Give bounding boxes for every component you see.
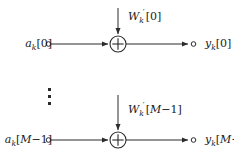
- input-label-top-index: [0]: [36, 37, 52, 50]
- weight-label-bottom-base: W: [128, 103, 139, 116]
- vertical-ellipsis-icon: [48, 88, 52, 108]
- weight-label-bottom-prime: ′: [143, 100, 145, 109]
- weight-label-top-prime: ′: [143, 7, 145, 16]
- output-label-top-sub: k: [211, 43, 216, 52]
- input-label-bottom-index-rest: −1]: [31, 133, 52, 146]
- weight-label-top: Wk′[0]: [128, 11, 161, 22]
- weight-label-bottom: Wk′[M−1]: [128, 104, 182, 115]
- weight-label-bottom-cal-m: M: [150, 103, 161, 116]
- output-label-bottom-sub: k: [211, 139, 216, 148]
- channel-row-top: [46, 8, 196, 52]
- signal-flow-diagram: ak[0] Wk′[0] yk[0] ak[M−1] Wk′[M−1] yk[M…: [0, 0, 234, 154]
- output-label-bottom-index-rest: −1]: [231, 133, 234, 146]
- output-label-bottom: yk[M−1]: [205, 134, 234, 145]
- input-label-top: ak[0]: [25, 38, 52, 49]
- weight-label-top-base: W: [128, 10, 139, 23]
- weight-label-top-sub: k: [139, 16, 144, 25]
- output-label-top-index: [0]: [216, 37, 232, 50]
- input-label-bottom-sub: k: [11, 139, 16, 148]
- output-terminal-bottom[interactable]: [191, 138, 196, 143]
- input-label-bottom: ak[M−1]: [5, 134, 52, 145]
- output-label-bottom-cal-m: M: [220, 133, 231, 146]
- input-label-bottom-base: a: [5, 133, 12, 146]
- output-label-top: yk[0]: [205, 38, 231, 49]
- input-label-top-sub: k: [32, 43, 37, 52]
- input-label-bottom-cal-m: M: [20, 133, 31, 146]
- weight-label-bottom-index-rest: −1]: [161, 103, 182, 116]
- diagram-canvas: [0, 0, 234, 154]
- output-terminal-top[interactable]: [191, 42, 196, 47]
- weight-label-bottom-sub: k: [139, 109, 144, 118]
- weight-label-top-index: [0]: [146, 10, 162, 23]
- input-label-top-base: a: [25, 37, 32, 50]
- summing-junction-top[interactable]: [110, 36, 126, 52]
- summing-junction-bottom[interactable]: [110, 132, 126, 148]
